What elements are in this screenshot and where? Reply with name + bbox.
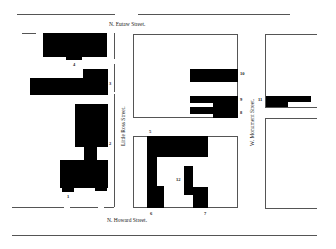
building-6 (147, 157, 157, 208)
building-1-right-foot (95, 187, 107, 191)
block-edge (265, 118, 317, 119)
building-10 (190, 69, 238, 82)
label-8: 8 (240, 110, 242, 115)
building-3-upper (83, 69, 108, 79)
building-12 (184, 166, 193, 195)
street-label-east: W. Monument Street. (249, 99, 255, 146)
building-5 (147, 136, 208, 157)
street-label-north: N. Eutaw Street. (109, 21, 145, 27)
building-7 (193, 187, 208, 208)
building-2 (75, 104, 108, 147)
label-12: 12 (176, 177, 181, 182)
block-edge (22, 33, 36, 34)
street-label-west: Little Ross Street. (120, 106, 126, 146)
block-edge (265, 107, 317, 108)
building-6-foot (157, 186, 164, 208)
building-2-neck (84, 146, 97, 160)
block-edge (265, 34, 317, 35)
street-line (12, 235, 317, 236)
label-2: 2 (109, 141, 111, 146)
label-7: 7 (204, 211, 206, 216)
building-11-lower (266, 102, 288, 107)
street-label-south: N. Howard Street. (107, 217, 147, 223)
building-8 (190, 107, 238, 114)
map: N. Eutaw Street. N. Howard Street. 4 3 2… (0, 0, 336, 249)
label-1: 1 (67, 194, 69, 199)
building-4-annex (66, 57, 82, 60)
block-edge (265, 118, 266, 208)
block-edge (114, 33, 115, 59)
block-edge (265, 208, 317, 209)
street-line (12, 207, 64, 208)
label-11: 11 (258, 97, 262, 102)
building-1 (60, 160, 108, 188)
label-4: 4 (73, 62, 75, 67)
label-10: 10 (240, 71, 245, 76)
block-edge (114, 64, 115, 92)
label-6: 6 (150, 211, 152, 216)
street-line (70, 207, 98, 208)
street-line (17, 14, 115, 15)
building-4 (43, 33, 107, 57)
building-1-left-foot (62, 187, 74, 192)
label-3: 3 (109, 81, 111, 86)
label-5: 5 (149, 129, 151, 134)
street-line (138, 14, 290, 15)
label-9: 9 (240, 97, 242, 102)
street-line (104, 207, 114, 208)
building-3 (30, 78, 108, 95)
block-edge (114, 94, 115, 207)
